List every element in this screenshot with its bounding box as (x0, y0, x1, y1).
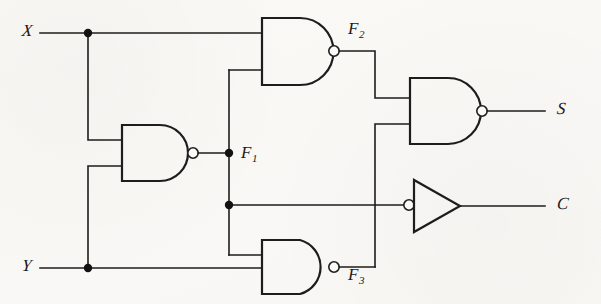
circuit-diagram-canvas: X Y F1 F2 F3 S C (0, 0, 601, 304)
wire-f2-to-s-gate (339, 51, 410, 98)
wire-x-branch-to-g1 (88, 33, 122, 140)
input-label-y: Y (21, 257, 32, 274)
wire-y-branch-to-g1 (88, 166, 122, 268)
nand-bubble-f2 (329, 46, 339, 56)
inverter-bubble-c (404, 200, 414, 210)
nand-gate-f3[interactable] (262, 240, 339, 294)
output-label-s: S (556, 100, 566, 117)
output-label-c: C (556, 195, 569, 212)
junction-dot-f1-top (225, 149, 233, 157)
junction-dot-y (84, 264, 92, 272)
wire-f3-to-s-gate (339, 124, 410, 267)
node-label-f3: F3 (348, 266, 364, 286)
input-label-x: X (21, 22, 33, 39)
junction-dot-f1-bottom (225, 201, 233, 209)
nand-bubble-s (477, 106, 487, 116)
node-label-f2: F2 (348, 20, 364, 40)
node-label-f1: F1 (241, 144, 257, 164)
nand-bubble-f1 (188, 148, 198, 158)
nand-gate-s[interactable] (410, 78, 487, 144)
schematic-svg (0, 0, 601, 304)
inverter-gate-c[interactable] (404, 180, 460, 232)
nand-gate-f1[interactable] (122, 125, 198, 181)
nand-gate-f2[interactable] (262, 18, 339, 85)
junction-dot-x (84, 29, 92, 37)
nand-bubble-f3 (329, 262, 339, 272)
